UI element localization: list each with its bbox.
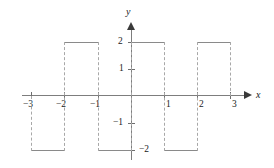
x-axis-arrow-icon <box>244 91 252 99</box>
y-tick-label: 2 <box>118 36 123 46</box>
y-tick-label: 1 <box>119 63 124 73</box>
wave-segment <box>98 150 131 151</box>
y-tick-label: −2 <box>139 144 149 154</box>
wave-segment <box>64 42 98 43</box>
wave-segment <box>31 150 64 151</box>
wave-segment <box>164 150 197 151</box>
wave-segment <box>131 42 164 43</box>
x-tick-label: 1 <box>166 99 171 109</box>
jump-connector <box>230 42 231 96</box>
jump-connector <box>64 42 65 151</box>
x-tick-label: 3 <box>232 99 237 109</box>
x-tick-label: 2 <box>199 99 204 109</box>
x-axis-line <box>22 95 249 96</box>
wave-segment <box>197 42 230 43</box>
jump-connector <box>164 42 165 151</box>
jump-connector <box>131 42 132 151</box>
y-tick-label: −1 <box>113 117 123 127</box>
y-axis-arrow-icon <box>127 22 135 30</box>
jump-connector <box>98 42 99 151</box>
x-axis-label: x <box>256 89 260 100</box>
square-wave-plot: x y −3 −2 −1 1 2 3 2 1 −1 −2 <box>0 0 274 168</box>
jump-connector <box>31 96 32 151</box>
y-axis-label: y <box>126 6 130 17</box>
jump-connector <box>197 42 198 151</box>
